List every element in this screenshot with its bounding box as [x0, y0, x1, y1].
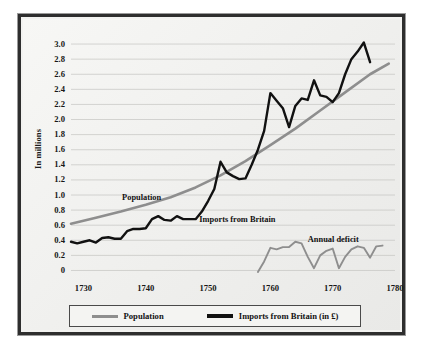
x-tick-label: 1780	[375, 283, 415, 293]
x-tick-label: 1730	[63, 283, 103, 293]
legend-swatch	[207, 314, 233, 317]
chart-annotation: Annual deficit	[308, 235, 359, 244]
x-tick-label: 1760	[250, 283, 290, 293]
legend-label: Population	[124, 311, 164, 321]
y-tick-label: 0.4	[31, 235, 65, 245]
y-tick-label: 3.0	[31, 39, 65, 49]
chart-frame: In millions 3.02.82.62.42.22.01.81.61.41…	[18, 14, 405, 335]
x-tick-label: 1740	[126, 283, 166, 293]
y-tick-label: 0.2	[31, 250, 65, 260]
x-tick-label: 1770	[313, 283, 353, 293]
chart-inner-panel: In millions 3.02.82.62.42.22.01.81.61.41…	[23, 19, 400, 330]
y-tick-label: 2.6	[31, 69, 65, 79]
y-tick-label: 2.2	[31, 99, 65, 109]
chart-annotation: Imports from Britain	[199, 215, 275, 224]
y-tick-label: 1.0	[31, 190, 65, 200]
x-tick-label: 1750	[188, 283, 228, 293]
y-tick-label: 2.8	[31, 54, 65, 64]
y-tick-label: 2.4	[31, 84, 65, 94]
chart-legend: PopulationImports from Britain (in £)	[69, 305, 361, 327]
y-tick-label: 1.2	[31, 174, 65, 184]
legend-label: Imports from Britain (in £)	[239, 311, 339, 321]
y-tick-label: 1.6	[31, 144, 65, 154]
y-tick-label: 1.8	[31, 129, 65, 139]
legend-item: Population	[92, 311, 164, 321]
y-tick-label: 1.4	[31, 159, 65, 169]
legend-item: Imports from Britain (in £)	[207, 311, 339, 321]
series-line	[258, 242, 383, 272]
legend-swatch	[92, 315, 118, 318]
y-tick-label: 2.0	[31, 114, 65, 124]
y-tick-label: 0.6	[31, 220, 65, 230]
y-tick-label: 0	[31, 265, 65, 275]
y-tick-label: 0.8	[31, 205, 65, 215]
chart-annotation: Population	[122, 193, 161, 202]
